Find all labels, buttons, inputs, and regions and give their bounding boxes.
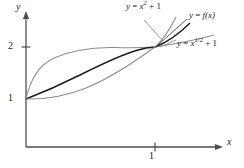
curve-label-sqrt-tail: + 1 <box>203 38 217 48</box>
curve-label-quadratic-eq: = <box>130 1 140 11</box>
curve-label-f: y = f(x) <box>189 11 215 20</box>
y-tick-label-2: 2 <box>8 41 13 51</box>
curve-label-f-eq: = <box>193 10 203 20</box>
curve-quadratic <box>26 17 176 99</box>
graph-figure: y x 2 1 1 y = x2 + 1 y = f(x) y = x1/2 +… <box>0 0 244 168</box>
y-axis <box>23 11 29 147</box>
curve-label-sqrt-eq: = <box>181 38 191 48</box>
curve-label-f-arg: (x) <box>205 10 215 20</box>
y-axis-label: y <box>16 2 20 12</box>
curve-label-sqrt-exponent: 1/2 <box>195 36 203 43</box>
curve-label-sqrt: y = x1/2 + 1 <box>177 39 217 48</box>
curve-label-quadratic: y = x2 + 1 <box>126 2 161 11</box>
x-axis-label: x <box>227 137 231 147</box>
x-axis <box>26 144 223 150</box>
x-tick-label-1: 1 <box>149 151 154 161</box>
y-tick-label-1: 1 <box>8 93 13 103</box>
curve-label-quadratic-tail: + 1 <box>147 1 161 11</box>
plot-canvas <box>0 0 244 168</box>
leader-line-quadratic <box>144 20 163 41</box>
